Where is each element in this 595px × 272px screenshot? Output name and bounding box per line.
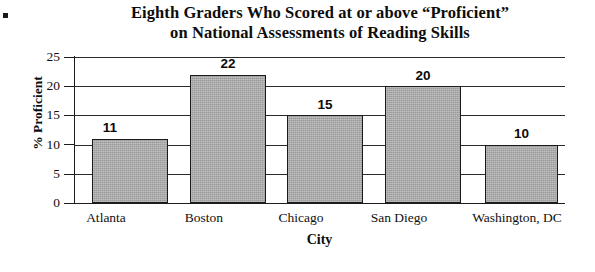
y-tick-label-5: 5 [30,166,60,182]
bar-washington-dc[interactable] [485,145,558,203]
x-axis-title: City [74,232,565,248]
chart-title-line-1: Eighth Graders Who Scored at or above “P… [60,3,580,23]
x-tick-label-atlanta: Atlanta [54,210,158,226]
y-tick-10 [64,144,74,145]
bar-value-chicago: 15 [287,97,363,112]
chart-title: Eighth Graders Who Scored at or above “P… [60,3,580,43]
y-tick-20 [64,86,74,87]
bar-value-san-diego: 20 [385,68,461,83]
y-tick-0 [64,203,74,204]
chart-title-line-2: on National Assessments of Reading Skill… [60,23,580,43]
x-axis-baseline [74,203,565,204]
y-tick-label-20: 20 [30,78,60,94]
y-tick-label-15: 15 [30,107,60,123]
bar-chicago[interactable] [287,115,363,203]
x-tick-label-san-diego: San Diego [347,210,451,226]
x-tick-label-chicago: Chicago [249,210,353,226]
bar-boston[interactable] [190,75,266,204]
bullet-mark [3,13,8,18]
bar-value-boston: 22 [190,56,266,71]
y-tick-label-10: 10 [30,137,60,153]
y-tick-15 [64,115,74,116]
y-tick-5 [64,174,74,175]
y-tick-label-25: 25 [30,49,60,65]
bar-san-diego[interactable] [385,86,461,203]
bar-value-washington-dc: 10 [485,126,558,141]
y-tick-25 [64,57,74,58]
y-tick-label-0: 0 [30,195,60,211]
bar-atlanta[interactable] [92,139,168,203]
gridline-20 [74,86,565,87]
bar-chart-figure: Eighth Graders Who Scored at or above “P… [0,0,595,272]
x-tick-label-boston: Boston [152,210,256,226]
gridline-25 [74,57,565,58]
x-tick-label-washington-dc: Washington, DC [452,210,582,226]
bar-value-atlanta: 11 [72,120,148,135]
